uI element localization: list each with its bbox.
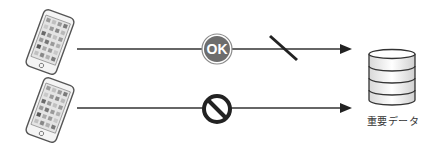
ok-badge-text: OK: [201, 33, 233, 65]
arrow-head-2: [340, 103, 352, 113]
database-icon: [366, 48, 418, 108]
arrow-head-1: [340, 44, 352, 54]
prohibited-icon: [201, 93, 233, 125]
line-break-mark: [270, 36, 297, 60]
ok-badge-icon: OK: [201, 33, 233, 65]
database-label: 重要データ: [362, 113, 424, 128]
